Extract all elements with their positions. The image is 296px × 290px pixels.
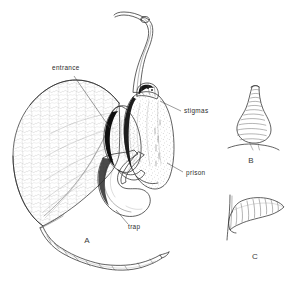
illustration-canvas: B C entrance stigmas prison — [0, 0, 296, 290]
botanical-plate: B C entrance stigmas prison — [0, 0, 296, 290]
figure-letter-b: B — [248, 156, 254, 165]
figure-letter-a: A — [84, 236, 90, 245]
figure-letter-c: C — [252, 252, 258, 261]
label-entrance: entrance — [52, 64, 80, 71]
label-prison: prison — [186, 169, 206, 177]
label-trap: trap — [128, 223, 141, 231]
label-stigmas: stigmas — [184, 107, 208, 115]
